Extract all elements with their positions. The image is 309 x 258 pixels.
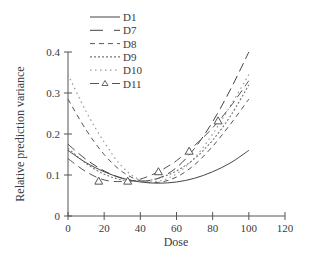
y-axis-label: Relative prediction variance	[13, 66, 27, 201]
triangle-marker-icon	[95, 177, 103, 184]
triangle-marker-icon	[185, 147, 193, 154]
legend-item-d11: D11	[90, 78, 142, 90]
axes: 02040608010012000.10.20.30.4	[46, 46, 294, 234]
chart: 02040608010012000.10.20.30.4 D1D7D8D9D10…	[0, 0, 309, 258]
series-d11	[68, 81, 249, 184]
series-line	[68, 81, 249, 182]
y-tick-label: 0	[55, 210, 61, 222]
x-tick-label: 120	[277, 222, 294, 234]
y-tick-label: 0.4	[46, 46, 60, 58]
legend-label: D9	[123, 51, 137, 63]
legend-item-d1: D1	[90, 11, 136, 23]
x-tick-label: 20	[99, 222, 111, 234]
y-tick-label: 0.1	[46, 169, 60, 181]
legend-label: D11	[123, 78, 142, 90]
x-tick-label: 80	[207, 222, 219, 234]
legend-item-d10: D10	[90, 64, 142, 76]
x-tick-label: 60	[171, 222, 183, 234]
legend-label: D1	[123, 11, 136, 23]
triangle-marker-icon	[154, 168, 162, 175]
y-tick-label: 0.3	[46, 87, 60, 99]
x-tick-label: 100	[241, 222, 258, 234]
legend-label: D7	[123, 24, 137, 36]
legend-label: D8	[123, 38, 137, 50]
x-tick-label: 0	[65, 222, 71, 234]
legend-label: D10	[123, 64, 142, 76]
y-tick-label: 0.2	[46, 128, 60, 140]
triangle-marker-icon	[102, 81, 108, 86]
x-tick-label: 40	[135, 222, 147, 234]
series-line	[68, 52, 249, 181]
legend-item-d8: D8	[90, 38, 137, 50]
x-axis-label: Dose	[164, 235, 189, 249]
series-d7	[68, 52, 249, 181]
legend: D1D7D8D9D10D11	[90, 11, 142, 90]
legend-item-d7: D7	[90, 24, 137, 36]
legend-item-d9: D9	[90, 51, 137, 63]
series-layer	[68, 52, 249, 184]
